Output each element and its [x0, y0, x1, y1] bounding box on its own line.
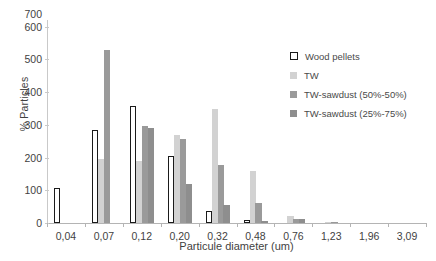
legend-item-wood-pellets: Wood pellets — [290, 48, 432, 64]
bar — [104, 50, 110, 223]
y-tick-label: 600 — [10, 22, 42, 32]
bar — [299, 219, 305, 223]
x-tick — [312, 223, 313, 227]
x-tick — [199, 223, 200, 227]
x-tick — [350, 223, 351, 227]
y-axis-line — [47, 20, 48, 223]
y-tick-label: 200 — [10, 153, 42, 163]
legend-swatch-icon-tw-sawdust-50-50 — [290, 91, 297, 98]
legend-label-wood-pellets: Wood pellets — [305, 51, 360, 62]
y-tick — [45, 92, 49, 93]
bar — [261, 221, 267, 223]
legend-label-tw-sawdust-50-50: TW-sawdust (50%-50%) — [304, 89, 407, 100]
legend-label-tw-sawdust-25-75: TW-sawdust (25%-75%) — [304, 108, 407, 119]
legend-item-tw: TW — [290, 67, 432, 83]
bar-group — [54, 20, 77, 223]
legend-item-tw-sawdust-25-75: TW-sawdust (25%-75%) — [290, 105, 432, 121]
x-tick — [388, 223, 389, 227]
y-tick — [45, 190, 49, 191]
bar-group — [244, 20, 267, 223]
bar — [223, 205, 229, 223]
y-tick-label: 500 — [10, 54, 42, 64]
y-tick — [45, 125, 49, 126]
particle-size-distribution-chart: % Particles 0100200300400500600700 0,040… — [0, 0, 436, 261]
y-tick-label: 300 — [10, 120, 42, 130]
x-tick — [47, 223, 48, 227]
legend-item-tw-sawdust-50-50: TW-sawdust (50%-50%) — [290, 86, 432, 102]
x-tick — [161, 223, 162, 227]
x-tick — [85, 223, 86, 227]
y-tick-label: 0 — [10, 218, 42, 228]
y-tick — [45, 27, 49, 28]
legend-swatch-icon-tw — [290, 72, 297, 79]
bar — [255, 203, 261, 223]
y-tick — [45, 59, 49, 60]
bar-group — [168, 20, 191, 223]
bar — [186, 184, 192, 223]
x-axis-title: Particule diameter (um) — [47, 240, 426, 252]
y-axis-title: % Particles — [18, 54, 34, 154]
bar — [331, 222, 337, 223]
y-tick — [45, 158, 49, 159]
chart-legend: Wood pellets TW TW-sawdust (50%-50%) TW-… — [290, 48, 432, 124]
y-tick-label: 700 — [10, 9, 42, 19]
bar-group — [92, 20, 115, 223]
y-tick-label: 100 — [10, 185, 42, 195]
x-tick — [237, 223, 238, 227]
x-tick — [123, 223, 124, 227]
legend-swatch-icon-wood-pellets — [290, 52, 298, 60]
bar-group — [130, 20, 153, 223]
bar — [148, 128, 154, 223]
legend-label-tw: TW — [304, 70, 319, 81]
bar-group — [206, 20, 229, 223]
y-tick-label: 400 — [10, 87, 42, 97]
x-tick — [274, 223, 275, 227]
legend-swatch-icon-tw-sawdust-25-75 — [290, 110, 297, 117]
bar — [54, 188, 60, 223]
y-tick — [45, 14, 49, 15]
x-tick — [426, 223, 427, 227]
